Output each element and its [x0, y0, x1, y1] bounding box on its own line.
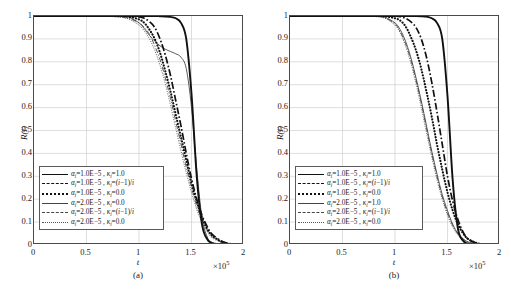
- y-tick-label: 1: [262, 11, 288, 19]
- legend-item: αi=1.0E−5 , κi=(i−1)/i: [42, 179, 160, 189]
- x-tick-label: 0.5: [336, 247, 347, 257]
- legend-item: αi=1.0E−5 , κi=0.0: [298, 188, 419, 198]
- legend-line-swatch: [42, 188, 68, 197]
- y-tick-label: 0.2: [6, 194, 32, 202]
- legend-line-swatch: [42, 198, 68, 207]
- legend-line-swatch: [298, 217, 324, 226]
- y-tick-label: 0.7: [6, 79, 32, 87]
- y-tick-label: 0: [6, 240, 32, 248]
- x-tick-label: 0.5: [80, 247, 91, 257]
- x-tick-label: 1.5: [185, 247, 196, 257]
- y-tick-label: 0.8: [6, 56, 32, 64]
- y-tick-label: 0.6: [6, 102, 32, 110]
- legend-item: αi=2.0E−5 , κi=0.0: [42, 198, 160, 208]
- y-tick-label: 0.6: [262, 102, 288, 110]
- y-tick-label: 0.1: [262, 217, 288, 225]
- legend-item-label: αi=1.0E−5 , κi=0.0: [327, 189, 381, 197]
- y-tick-label: 0.8: [262, 56, 288, 64]
- legend-item-label: αi=2.0E−5 , κi=0.0: [327, 218, 381, 226]
- y-tick-label: 0.9: [6, 33, 32, 41]
- legend-line-swatch: [42, 179, 68, 188]
- legend-item-label: αi=2.0E−5 , κi=1.0: [327, 199, 381, 207]
- legend-item: αi=2.0E−5 , κi=(i−1)/i: [42, 207, 160, 217]
- legend-line-swatch: [42, 217, 68, 226]
- legend-item-label: αi=2.0E−5 , κi=(i−1)/i: [71, 208, 134, 216]
- legend-item-label: αi=1.0E−5 , κi=(i−1)/i: [327, 179, 390, 187]
- legend-a: αi=1.0E−5 , κi=1.0αi=1.0E−5 , κi=(i−1)/i…: [39, 166, 164, 230]
- legend-item: αi=2.0E−5 , κi=0.0: [298, 217, 419, 227]
- legend-item: αi=1.0E−5 , κi=1.0: [298, 169, 419, 179]
- x-tick-label: 1.5: [441, 247, 452, 257]
- legend-line-swatch: [42, 169, 68, 178]
- x-axis-label-a: t: [137, 257, 140, 267]
- x-axis-label-b: t: [393, 257, 396, 267]
- y-tick-label: 0.5: [6, 125, 32, 133]
- legend-line-swatch: [298, 208, 324, 217]
- y-tick-labels-a: 10.90.80.70.60.50.40.30.20.10: [0, 0, 32, 300]
- y-tick-label: 0.9: [262, 33, 288, 41]
- panel-tag-a: (a): [133, 270, 143, 280]
- legend-item: αi=2.0E−5 , κi=0.0: [42, 217, 160, 227]
- legend-line-swatch: [298, 198, 324, 207]
- x-tick-label: 2: [497, 247, 501, 257]
- panel-a: R(t) 10.90.80.70.60.50.40.30.20.10 t ×10…: [0, 0, 255, 300]
- legend-item-label: αi=2.0E−5 , κi=0.0: [71, 199, 125, 207]
- legend-item-label: αi=1.0E−5 , κi=0.0: [71, 189, 125, 197]
- y-tick-label: 0.1: [6, 217, 32, 225]
- legend-item-label: αi=1.0E−5 , κi=1.0: [71, 170, 125, 178]
- x-tick-label: 1: [136, 247, 140, 257]
- legend-item: αi=2.0E−5 , κi=1.0: [298, 198, 419, 208]
- y-tick-label: 0.4: [262, 148, 288, 156]
- x-tick-label: 0: [31, 247, 35, 257]
- x-tick-label: 1: [392, 247, 396, 257]
- legend-item: αi=1.0E−5 , κi=(i−1)/i: [298, 179, 419, 189]
- y-tick-label: 0.3: [262, 171, 288, 179]
- legend-line-swatch: [42, 208, 68, 217]
- panel-tag-b: (b): [389, 270, 400, 280]
- x-tick-label: 2: [241, 247, 245, 257]
- x-axis-multiplier-a: ×105: [213, 259, 230, 271]
- y-tick-labels-b: 10.90.80.70.60.50.40.30.20.10: [256, 0, 288, 300]
- legend-item-label: αi=2.0E−5 , κi=0.0: [71, 218, 125, 226]
- figure-reliability-plots: R(t) 10.90.80.70.60.50.40.30.20.10 t ×10…: [0, 0, 511, 300]
- y-tick-label: 0: [262, 240, 288, 248]
- y-tick-label: 0.2: [262, 194, 288, 202]
- legend-line-swatch: [298, 188, 324, 197]
- legend-item-label: αi=1.0E−5 , κi=(i−1)/i: [71, 179, 134, 187]
- y-tick-label: 0.7: [262, 79, 288, 87]
- y-tick-label: 1: [6, 11, 32, 19]
- legend-item: αi=1.0E−5 , κi=0.0: [42, 188, 160, 198]
- legend-item-label: αi=2.0E−5 , κi=(i−1)/i: [327, 208, 390, 216]
- legend-b: αi=1.0E−5 , κi=1.0αi=1.0E−5 , κi=(i−1)/i…: [295, 166, 423, 230]
- panel-b: R(t) 10.90.80.70.60.50.40.30.20.10 t ×10…: [256, 0, 511, 300]
- legend-item: αi=2.0E−5 , κi=(i−1)/i: [298, 207, 419, 217]
- y-tick-label: 0.4: [6, 148, 32, 156]
- x-axis-multiplier-b: ×105: [469, 259, 486, 271]
- legend-item-label: αi=1.0E−5 , κi=1.0: [327, 170, 381, 178]
- y-tick-label: 0.5: [262, 125, 288, 133]
- x-tick-label: 0: [287, 247, 291, 257]
- legend-line-swatch: [298, 179, 324, 188]
- legend-item: αi=1.0E−5 , κi=1.0: [42, 169, 160, 179]
- legend-line-swatch: [298, 169, 324, 178]
- y-tick-label: 0.3: [6, 171, 32, 179]
